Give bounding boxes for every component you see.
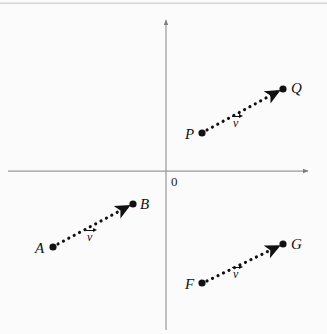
- point-label-p: P: [185, 127, 194, 142]
- vector-arrow-accent-fg: [232, 264, 238, 269]
- vector-label-pq-glyph: v: [232, 117, 238, 129]
- vector-arrow-accent-ab: [86, 227, 92, 232]
- vector-fg-shaft: [207, 247, 277, 281]
- vector-diagram-figure: 0 A B P Q F G v v v: [0, 0, 327, 334]
- diagram-canvas: [0, 0, 327, 334]
- vector-fg: [198, 240, 286, 286]
- vector-ab-shaft: [58, 207, 127, 244]
- point-label-b: B: [140, 197, 149, 212]
- point-label-f: F: [185, 277, 194, 292]
- axes-group: [8, 20, 308, 330]
- point-p-dot: [198, 129, 205, 136]
- vector-pq-shaft: [207, 92, 277, 130]
- origin-label: 0: [171, 175, 178, 188]
- vector-label-fg-glyph: v: [232, 268, 238, 280]
- vector-arrow-accent-pq: [232, 113, 238, 118]
- vector-label-ab-glyph: v: [86, 231, 92, 243]
- vector-label-ab: v: [86, 227, 92, 243]
- vector-label-fg: v: [232, 264, 238, 280]
- point-label-g: G: [291, 237, 302, 252]
- point-f-dot: [198, 279, 205, 286]
- vector-label-pq: v: [232, 113, 238, 129]
- point-a-dot: [49, 243, 56, 250]
- point-label-q: Q: [291, 81, 302, 96]
- point-label-a: A: [35, 241, 44, 256]
- vector-ab: [49, 200, 136, 250]
- vectors-group: [49, 85, 286, 286]
- point-q-dot: [279, 85, 286, 92]
- point-g-dot: [279, 240, 286, 247]
- point-b-dot: [129, 200, 136, 207]
- vector-pq: [198, 85, 286, 136]
